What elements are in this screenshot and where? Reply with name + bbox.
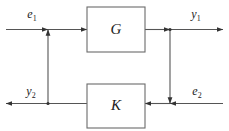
block-diagram-canvas: G K e1 y1 y2 e2 [0, 0, 229, 131]
block-g-label: G [111, 21, 122, 37]
signal-label-y1: y1 [190, 7, 200, 23]
signal-label-y2-subscript: 2 [32, 91, 36, 100]
signal-label-y1-subscript: 1 [197, 14, 201, 23]
signal-label-e2: e2 [192, 84, 201, 100]
signal-label-e1: e1 [27, 7, 36, 23]
junction-dot-top-right [168, 28, 171, 31]
block-k-label: K [110, 97, 122, 113]
signal-label-e2-subscript: 2 [198, 91, 202, 100]
junction-dot-bottom-left [46, 102, 49, 105]
signal-label-e1-subscript: 1 [33, 14, 37, 23]
block-diagram-svg: G K e1 y1 y2 e2 [0, 0, 229, 131]
signal-label-y2: y2 [25, 84, 35, 100]
